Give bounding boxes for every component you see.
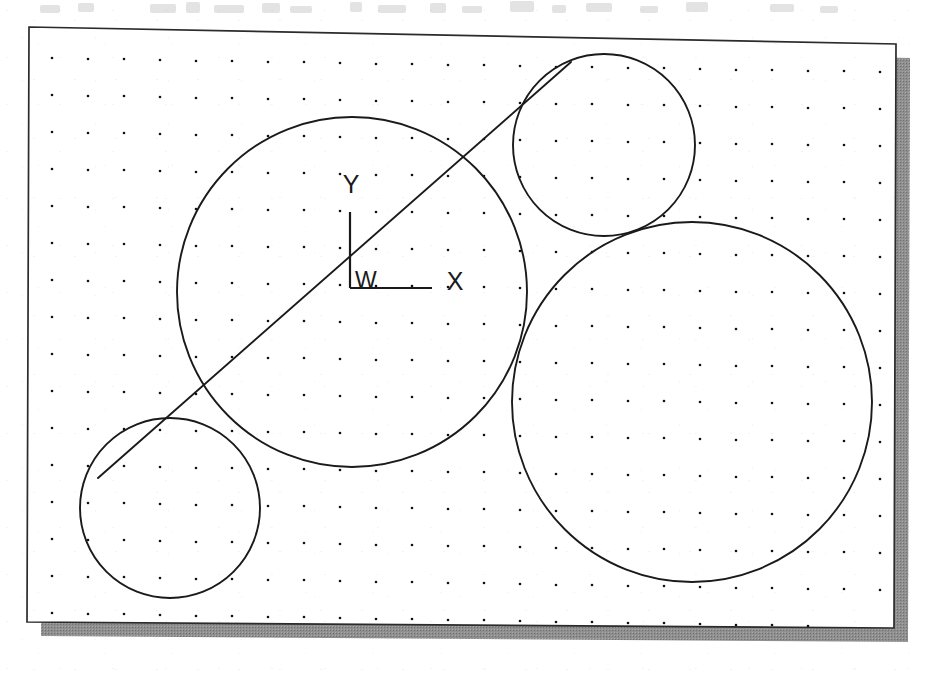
drawing-sheet	[27, 27, 896, 628]
ucs-origin-label: W	[355, 267, 377, 293]
drawing-canvas: Y W X	[0, 0, 932, 680]
screenshot-root: Y W X	[0, 0, 932, 680]
ucs-x-label: X	[447, 267, 464, 295]
ucs-y-label: Y	[343, 170, 360, 198]
